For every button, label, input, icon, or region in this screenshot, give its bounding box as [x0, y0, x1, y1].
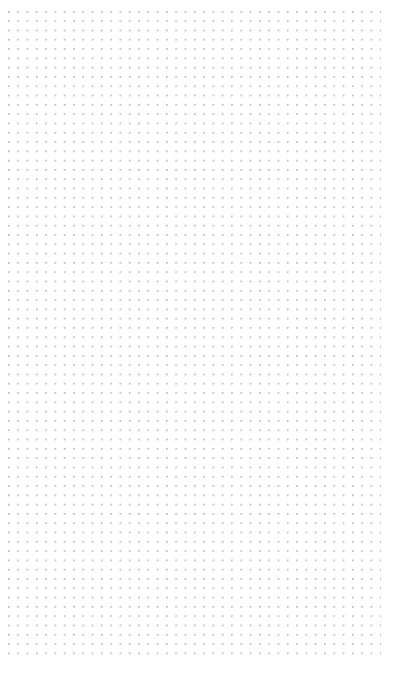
dot-grid-page: [0, 0, 414, 674]
dot-grid-field: [8, 11, 381, 658]
